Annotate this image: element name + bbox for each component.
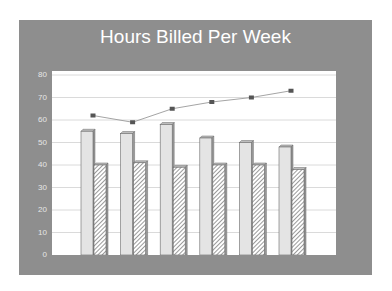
line-marker	[91, 114, 96, 118]
bar-series1	[81, 131, 93, 255]
bar-series2	[292, 170, 304, 256]
bar-series1	[121, 134, 133, 256]
y-tick-label: 30	[21, 183, 47, 192]
line-marker	[249, 96, 254, 100]
bar-series1	[160, 125, 172, 256]
bar-series2	[134, 163, 146, 255]
bar-series2	[94, 165, 106, 255]
bar-series2	[213, 165, 225, 255]
plot-area	[52, 71, 336, 255]
y-tick-label: 20	[21, 205, 47, 214]
y-tick-label: 10	[21, 228, 47, 237]
bar-series2	[252, 165, 264, 255]
chart-panel: Hours Billed Per Week 01020304050607080	[19, 20, 372, 275]
bar-series1	[279, 147, 291, 255]
y-tick-label: 70	[21, 93, 47, 102]
bar-series2	[173, 167, 185, 255]
line-marker	[289, 89, 294, 93]
y-tick-label: 40	[21, 160, 47, 169]
chart-title: Hours Billed Per Week	[19, 26, 372, 48]
y-tick-label: 80	[21, 70, 47, 79]
y-tick-label: 60	[21, 115, 47, 124]
line-marker	[209, 100, 214, 104]
bar-series1	[200, 138, 212, 255]
bar-series1	[239, 143, 251, 256]
y-tick-label: 0	[21, 250, 47, 259]
y-tick-label: 50	[21, 138, 47, 147]
chart-canvas	[52, 71, 336, 255]
line-marker	[170, 107, 175, 111]
line-marker	[130, 120, 135, 124]
line-series	[93, 91, 291, 123]
